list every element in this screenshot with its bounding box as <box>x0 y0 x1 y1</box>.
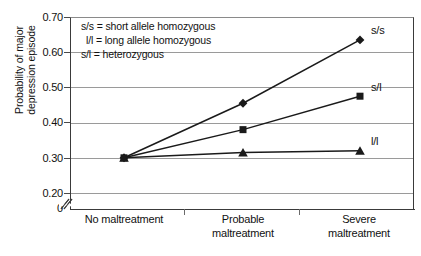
x-tick-label-2-line-1: Severe <box>297 213 421 227</box>
line-chart: Probability of major depression episode … <box>0 0 421 256</box>
series-ss <box>120 35 365 162</box>
x-tick-label-1: Probable maltreatment <box>180 213 306 240</box>
x-tick-label-2-line-2: maltreatment <box>297 227 421 241</box>
series-label-sl: s/l <box>371 82 381 93</box>
series-line <box>124 40 360 158</box>
x-tick-label-1-line-1: Probable <box>180 213 306 227</box>
x-tick-label-0: No maltreatment <box>56 213 192 227</box>
x-tick-label-1-line-2: maltreatment <box>180 227 306 241</box>
x-tick-label-2: Severe maltreatment <box>297 213 421 240</box>
data-point-square <box>240 126 247 133</box>
x-tick-label-0-line-1: No maltreatment <box>56 213 192 227</box>
series-ll <box>119 146 365 162</box>
data-point-square <box>357 93 364 100</box>
series-label-ll: l/l <box>371 136 378 147</box>
data-point-diamond <box>356 35 365 44</box>
data-point-diamond <box>239 99 248 108</box>
series-label-ss: s/s <box>371 25 384 36</box>
